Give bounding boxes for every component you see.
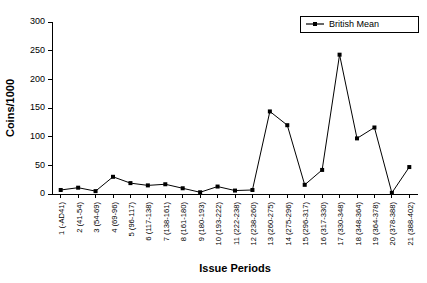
- data-point-marker: [59, 188, 63, 192]
- y-axis-tick-group: 050100150200250300: [30, 16, 52, 198]
- data-point-marker: [233, 189, 237, 193]
- data-point-marker: [372, 125, 376, 129]
- data-point-marker: [216, 185, 220, 189]
- x-axis-tick-label: 19 (364-378): [371, 202, 380, 246]
- x-axis-tick-label: 13 (260-275): [266, 202, 275, 246]
- x-axis-tick-label: 4 (69-96): [110, 202, 119, 233]
- x-axis-tick-label: 1 (-AD41): [57, 202, 66, 235]
- data-point-marker: [303, 183, 307, 187]
- data-point-marker: [146, 183, 150, 187]
- x-axis-tick-label: 6 (117-138): [144, 202, 153, 241]
- data-point-marker: [198, 190, 202, 194]
- x-axis-tick-label: 9 (180-193): [197, 202, 206, 242]
- data-point-marker: [181, 186, 185, 190]
- y-axis-tick-label: 0: [40, 188, 45, 198]
- data-point-marker: [76, 186, 80, 190]
- x-axis-tick-label: 20 (378-388): [388, 202, 397, 246]
- x-axis-tick-label: 8 (161-180): [179, 202, 188, 242]
- y-axis-tick-label: 250: [30, 45, 45, 55]
- x-axis-title: Issue Periods: [199, 262, 271, 274]
- x-axis-tick-label: 12 (238-260): [249, 202, 258, 246]
- x-axis-tick-label: 2 (41-54): [75, 202, 84, 233]
- y-axis-tick-label: 150: [30, 102, 45, 112]
- data-point-marker: [111, 175, 115, 179]
- y-axis-tick-label: 300: [30, 16, 45, 26]
- y-axis-title: Coins/1000: [4, 79, 16, 137]
- data-point-marker: [268, 109, 272, 113]
- y-axis-tick-label: 50: [35, 160, 45, 170]
- x-axis-tick-label: 10 (193-222): [214, 202, 223, 246]
- data-series-group: [59, 53, 412, 195]
- x-axis-tick-label: 7 (138-161): [162, 202, 171, 242]
- x-axis-tick-label: 21 (388-402): [406, 202, 415, 246]
- x-axis-tick-label: 3 (54-69): [92, 202, 101, 233]
- series-line-british-mean: [61, 55, 410, 193]
- data-point-marker: [163, 182, 167, 186]
- chart-container: 050100150200250300 1 (-AD41)2 (41-54)3 (…: [0, 0, 427, 283]
- y-axis-tick-label: 200: [30, 74, 45, 84]
- x-axis-tick-label: 11 (222-238): [232, 202, 241, 245]
- x-axis-tick-label: 5 (96-117): [127, 202, 136, 237]
- x-axis-tick-group: [61, 194, 410, 198]
- data-point-marker: [355, 136, 359, 140]
- chart-legend: British Mean: [300, 16, 418, 32]
- data-point-marker: [128, 181, 132, 185]
- x-axis-labels: 1 (-AD41)2 (41-54)3 (54-69)4 (69-96)5 (9…: [57, 202, 415, 246]
- data-point-marker: [390, 191, 394, 195]
- data-point-marker: [320, 168, 324, 172]
- data-point-marker: [338, 53, 342, 57]
- x-axis-tick-label: 18 (348-364): [354, 202, 363, 246]
- legend-entry-label: British Mean: [329, 19, 379, 29]
- x-axis-tick-label: 17 (330-348): [336, 202, 345, 246]
- data-point-marker: [285, 123, 289, 127]
- x-axis-tick-label: 16 (317-330): [319, 202, 328, 246]
- data-point-marker: [94, 189, 98, 193]
- x-axis-tick-label: 14 (275-296): [284, 202, 293, 246]
- data-point-marker: [250, 188, 254, 192]
- line-chart: 050100150200250300 1 (-AD41)2 (41-54)3 (…: [0, 0, 427, 283]
- x-axis-tick-label: 15 (296-317): [301, 202, 310, 246]
- y-axis-tick-label: 100: [30, 131, 45, 141]
- legend-marker-swatch: [313, 22, 317, 26]
- data-point-marker: [407, 165, 411, 169]
